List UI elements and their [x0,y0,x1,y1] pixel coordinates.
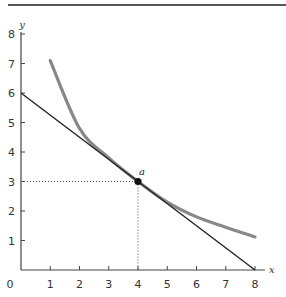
y-tick-label: 3 [8,176,15,189]
x-tick-label: 0 [7,278,14,291]
chart: 01234567812345678xya [0,0,286,297]
point-marker [134,178,141,185]
x-axis-label: x [269,264,275,275]
x-tick-label: 1 [47,278,54,291]
x-tick-label: 2 [76,278,83,291]
indifference-curve [50,61,255,237]
y-tick-label: 7 [8,58,15,71]
y-axis-label: y [18,19,25,30]
y-tick-label: 5 [8,117,15,130]
y-tick-label: 8 [8,28,15,41]
point-label: a [139,166,145,177]
x-tick-label: 8 [252,278,259,291]
y-tick-label: 6 [8,87,15,100]
y-tick-label: 4 [8,146,15,159]
x-tick-label: 3 [105,278,112,291]
x-tick-label: 5 [164,278,171,291]
x-tick-label: 6 [193,278,200,291]
y-tick-label: 2 [8,205,15,218]
x-tick-label: 7 [222,278,229,291]
y-tick-label: 1 [8,235,15,248]
x-tick-label: 4 [135,278,142,291]
